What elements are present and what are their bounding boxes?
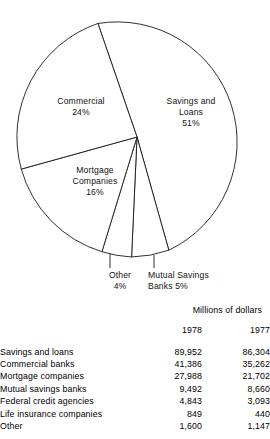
pie-label-other-percent: 4% <box>114 281 127 291</box>
table-row: Other 1,600 1,147 <box>0 420 270 432</box>
pie-label-msb-name-2: Banks 5% <box>148 281 188 291</box>
table-row: Mutual savings banks 9,492 8,660 <box>0 383 270 395</box>
pie-label-mortgage-percent: 16% <box>86 187 104 197</box>
pie-chart-area: Commercial 24% Savings and Loans 51% Mor… <box>0 0 270 300</box>
table-row: Commercial banks 41,386 35,262 <box>0 358 270 370</box>
pie-label-commercial-percent: 24% <box>72 107 90 117</box>
data-table: 1978 1977 Savings and loans 89,952 86,30… <box>0 324 270 432</box>
pie-label-mutual-savings-banks: Mutual Savings Banks 5% <box>148 270 238 292</box>
table-units-header: Millions of dollars <box>0 304 270 316</box>
row-label: Mutual savings banks <box>0 383 140 395</box>
pie-chart-figure: Commercial 24% Savings and Loans 51% Mor… <box>0 0 270 439</box>
row-label: Savings and loans <box>0 346 140 358</box>
table-body: Savings and loans 89,952 86,304 Commerci… <box>0 346 270 433</box>
row-value-1977: 440 <box>202 408 270 420</box>
data-table-area: Millions of dollars 1978 1977 Savings an… <box>0 304 270 432</box>
row-value-1977: 3,093 <box>202 395 270 407</box>
row-label: Other <box>0 420 140 432</box>
pie-label-commercial-name: Commercial <box>57 96 104 106</box>
table-row: Life insurance companies 849 440 <box>0 408 270 420</box>
pie-label-msb-name-1: Mutual Savings <box>148 270 209 280</box>
pie-label-other: Other 4% <box>96 270 144 292</box>
pie-label-commercial: Commercial 24% <box>35 96 127 118</box>
row-value-1978: 4,843 <box>140 395 202 407</box>
row-label: Life insurance companies <box>0 408 140 420</box>
row-label: Federal credit agencies <box>0 395 140 407</box>
table-header: 1978 1977 <box>0 324 270 345</box>
row-label: Mortgage companies <box>0 370 140 382</box>
row-value-1977: 8,660 <box>202 383 270 395</box>
table-header-row: 1978 1977 <box>0 324 270 345</box>
row-value-1977: 1,147 <box>202 420 270 432</box>
pie-label-mortgage-name-2: Companies <box>73 176 118 186</box>
pie-label-savings-name-1: Savings and <box>167 96 216 106</box>
row-value-1978: 849 <box>140 408 202 420</box>
row-label: Commercial banks <box>0 358 140 370</box>
row-value-1978: 41,386 <box>140 358 202 370</box>
row-value-1978: 1,600 <box>140 420 202 432</box>
pie-chart-svg <box>0 0 270 300</box>
pie-label-mortgage-companies: Mortgage Companies 16% <box>52 165 138 199</box>
row-value-1977: 35,262 <box>202 358 270 370</box>
pie-label-savings-percent: 51% <box>182 118 200 128</box>
row-value-1978: 27,988 <box>140 370 202 382</box>
table-header-label <box>0 324 140 345</box>
table-row: Mortgage companies 27,988 21,702 <box>0 370 270 382</box>
row-value-1978: 89,952 <box>140 346 202 358</box>
table-row: Federal credit agencies 4,843 3,093 <box>0 395 270 407</box>
row-value-1977: 86,304 <box>202 346 270 358</box>
pie-label-savings-and-loans: Savings and Loans 51% <box>148 96 234 130</box>
table-header-1977: 1977 <box>202 324 270 345</box>
pie-label-savings-name-2: Loans <box>179 107 203 117</box>
pie-label-other-name: Other <box>109 270 131 280</box>
row-value-1977: 21,702 <box>202 370 270 382</box>
pie-label-mortgage-name-1: Mortgage <box>76 165 114 175</box>
table-header-1978: 1978 <box>140 324 202 345</box>
row-value-1978: 9,492 <box>140 383 202 395</box>
table-row: Savings and loans 89,952 86,304 <box>0 346 270 358</box>
